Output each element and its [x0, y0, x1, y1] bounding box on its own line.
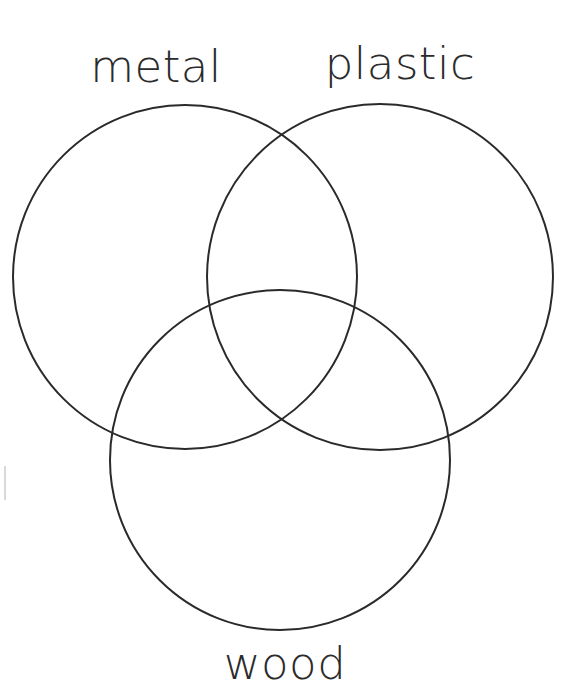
- diagram-background: [0, 0, 571, 693]
- venn-diagram-canvas: [0, 0, 571, 693]
- venn-label-wood: wood: [224, 641, 346, 686]
- venn-label-metal: metal: [90, 44, 222, 89]
- venn-label-plastic: plastic: [325, 41, 475, 86]
- venn-diagram-page: metal plastic wood: [0, 0, 571, 693]
- left-edge-tick-mark: [4, 466, 6, 500]
